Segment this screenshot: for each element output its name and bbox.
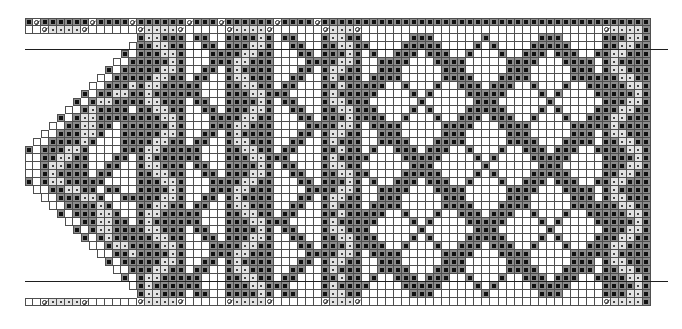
chart-cell xyxy=(402,98,410,106)
chart-cell xyxy=(314,114,322,122)
empty-space xyxy=(33,258,41,266)
chart-cell xyxy=(474,130,482,138)
empty-space xyxy=(49,226,57,234)
chart-cell xyxy=(89,210,97,218)
empty-space xyxy=(33,98,41,106)
filled-square-icon xyxy=(323,220,327,224)
chart-cell xyxy=(226,202,234,210)
twist-stitch-icon xyxy=(130,20,135,25)
filled-square-icon xyxy=(340,20,344,24)
filled-square-icon xyxy=(572,276,576,280)
chart-cell xyxy=(65,114,73,122)
chart-cell xyxy=(97,234,105,242)
chart-cell xyxy=(234,298,242,306)
chart-cell xyxy=(402,66,410,74)
chart-cell xyxy=(474,266,482,274)
chart-cell xyxy=(266,74,274,82)
filled-square-icon xyxy=(356,260,360,264)
filled-square-icon xyxy=(227,124,231,128)
filled-square-icon xyxy=(620,156,624,160)
chart-cell xyxy=(442,194,450,202)
chart-cell xyxy=(250,218,258,226)
chart-cell xyxy=(563,282,571,290)
filled-square-icon xyxy=(195,204,199,208)
chart-cell xyxy=(587,90,595,98)
filled-square-icon xyxy=(444,180,448,184)
empty-space xyxy=(57,266,65,274)
chart-cell xyxy=(426,242,434,250)
chart-cell xyxy=(418,266,426,274)
chart-cell xyxy=(611,162,619,170)
filled-square-icon xyxy=(596,52,600,56)
filled-square-icon xyxy=(291,20,295,24)
chart-cell xyxy=(266,130,274,138)
chart-cell xyxy=(362,138,370,146)
filled-square-icon xyxy=(83,20,87,24)
chart-cell xyxy=(242,90,250,98)
chart-cell xyxy=(314,146,322,154)
chart-cell xyxy=(306,122,314,130)
filled-square-icon xyxy=(644,244,648,248)
filled-square-icon xyxy=(436,20,440,24)
chart-cell xyxy=(474,210,482,218)
chart-cell xyxy=(306,186,314,194)
chart-cell xyxy=(531,234,539,242)
filled-square-icon xyxy=(428,292,432,296)
filled-square-icon xyxy=(556,20,560,24)
dot-icon xyxy=(164,197,166,199)
chart-cell xyxy=(226,122,234,130)
chart-cell xyxy=(121,106,129,114)
dot-icon xyxy=(621,245,623,247)
chart-cell xyxy=(386,98,394,106)
filled-square-icon xyxy=(620,100,624,104)
chart-cell xyxy=(105,242,113,250)
dot-icon xyxy=(156,277,158,279)
chart-cell xyxy=(202,290,210,298)
chart-cell xyxy=(186,154,194,162)
chart-cell xyxy=(242,170,250,178)
chart-cell xyxy=(418,242,426,250)
filled-square-icon xyxy=(476,284,480,288)
filled-square-icon xyxy=(548,284,552,288)
filled-square-icon xyxy=(211,236,215,240)
filled-square-icon xyxy=(372,92,376,96)
chart-cell xyxy=(234,210,242,218)
filled-square-icon xyxy=(147,140,151,144)
chart-cell xyxy=(426,98,434,106)
chart-cell xyxy=(499,74,507,82)
chart-cell xyxy=(145,218,153,226)
chart-cell xyxy=(194,210,202,218)
chart-cell xyxy=(442,250,450,258)
filled-square-icon xyxy=(203,164,207,168)
chart-cell xyxy=(161,250,169,258)
chart-cell xyxy=(89,234,97,242)
filled-square-icon xyxy=(508,124,512,128)
filled-square-icon xyxy=(243,220,247,224)
chart-cell xyxy=(442,82,450,90)
filled-square-icon xyxy=(364,84,368,88)
filled-square-icon xyxy=(500,252,504,256)
chart-cell xyxy=(290,170,298,178)
chart-cell xyxy=(555,242,563,250)
dot-icon xyxy=(164,261,166,263)
chart-cell xyxy=(330,234,338,242)
chart-cell xyxy=(595,50,603,58)
chart-cell xyxy=(418,282,426,290)
chart-cell xyxy=(539,154,547,162)
chart-cell xyxy=(507,122,515,130)
chart-cell xyxy=(226,178,234,186)
chart-cell xyxy=(290,114,298,122)
chart-cell xyxy=(402,226,410,234)
chart-cell xyxy=(346,170,354,178)
chart-cell xyxy=(466,146,474,154)
chart-cell xyxy=(290,162,298,170)
chart-cell xyxy=(129,130,137,138)
chart-cell xyxy=(290,218,298,226)
chart-cell xyxy=(169,138,177,146)
chart-cell xyxy=(306,226,314,234)
chart-cell xyxy=(547,170,555,178)
chart-cell xyxy=(507,290,515,298)
chart-cell xyxy=(410,34,418,42)
chart-cell xyxy=(298,98,306,106)
filled-square-icon xyxy=(436,284,440,288)
